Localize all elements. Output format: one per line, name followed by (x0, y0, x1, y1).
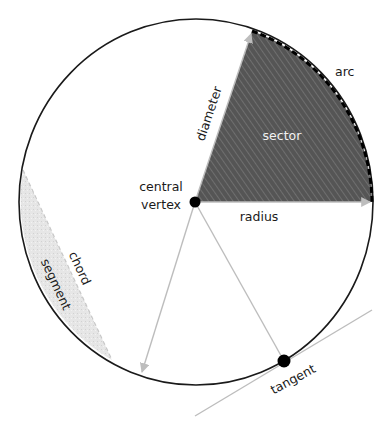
circle-parts-diagram: arc sector diameter central vertex radiu… (0, 0, 392, 429)
radius-to-tangent-line (195, 202, 284, 361)
sector-region (195, 31, 372, 202)
arc-label: arc (335, 64, 355, 79)
radius-arrow-lower (142, 202, 195, 372)
radius-label: radius (240, 209, 279, 224)
tangent-point (278, 355, 291, 368)
vertex-label: vertex (141, 197, 181, 212)
central-label: central (139, 179, 183, 194)
central-vertex-point (190, 197, 201, 208)
sector-label: sector (263, 128, 303, 143)
